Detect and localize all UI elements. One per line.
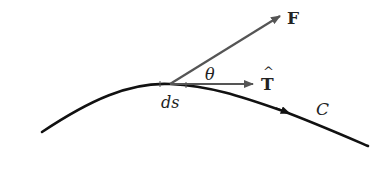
angle-label: θ bbox=[205, 65, 215, 84]
diagram-svg: F ^ T θ ds C bbox=[0, 0, 388, 169]
tangent-label: T bbox=[261, 74, 274, 94]
force-label: F bbox=[287, 8, 299, 28]
line-integral-diagram: F ^ T θ ds C bbox=[0, 0, 388, 169]
arc-element-label: ds bbox=[161, 93, 179, 112]
curve-label: C bbox=[316, 99, 329, 119]
